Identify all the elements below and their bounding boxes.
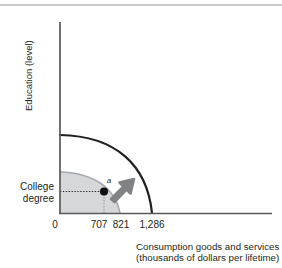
y-axis-college-degree-label: College degree <box>8 181 54 205</box>
point-a-marker <box>100 187 108 195</box>
college-degree-line2: degree <box>23 193 54 204</box>
x-tick-label-821: 821 <box>109 219 133 231</box>
x-tick-label-0: 0 <box>46 219 64 231</box>
x-axis-caption-line2: (thousands of dollars per lifetime) <box>136 252 279 263</box>
x-tick-label-1286: 1,286 <box>133 219 171 231</box>
x-axis-caption: Consumption goods and services (thousand… <box>136 241 282 264</box>
ppf-figure: Education (level) College degree 0 707 8… <box>0 0 282 268</box>
x-axis-caption-line1: Consumption goods and services <box>136 241 279 252</box>
y-axis-label: Education (level) <box>23 30 34 122</box>
x-tick-label-707: 707 <box>87 219 111 231</box>
college-degree-line1: College <box>20 181 54 192</box>
point-a-label: a <box>103 176 115 185</box>
